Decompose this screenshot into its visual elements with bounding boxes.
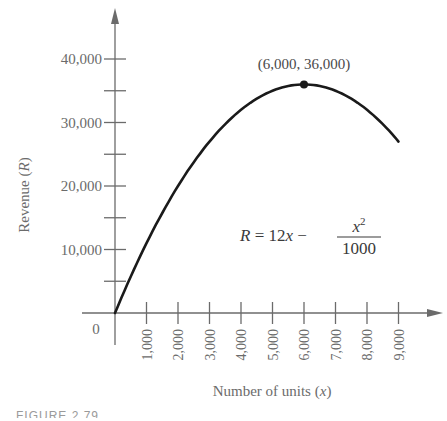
y-tick-label: 40,000 <box>61 51 102 67</box>
x-axis-title: Number of units (x) <box>213 383 332 400</box>
x-tick-label: 2,000 <box>171 329 186 361</box>
y-axis-arrow-icon <box>111 8 119 24</box>
y-tick-label: 20,000 <box>61 178 102 194</box>
peak-point-marker <box>300 80 308 88</box>
y-tick-label: 30,000 <box>61 115 102 131</box>
revenue-chart: 10,00020,00030,00040,000 1,0002,0003,000… <box>0 0 447 421</box>
x-tick-label: 4,000 <box>234 329 249 361</box>
x-tick-labels: 1,0002,0003,0004,0005,0006,0007,0008,000… <box>140 329 407 361</box>
x-tick-label: 6,000 <box>297 329 312 361</box>
y-tick-labels: 10,00020,00030,00040,000 <box>61 51 102 258</box>
formula: R = 12x − x2 1000 <box>239 215 381 258</box>
x-tick-label: 1,000 <box>140 329 155 361</box>
svg-text:R = 12x −: R = 12x − <box>239 226 307 245</box>
x-tick-label: 8,000 <box>360 329 375 361</box>
formula-denominator: 1000 <box>342 239 376 258</box>
formula-lhs: R <box>239 226 251 245</box>
y-axis-title: Revenue (R) <box>16 157 33 232</box>
formula-exponent: 2 <box>360 215 366 227</box>
figure-caption: FIGURE 2.79 <box>16 408 99 418</box>
x-tick-label: 3,000 <box>203 329 218 361</box>
peak-label: (6,000, 36,000) <box>258 56 351 73</box>
formula-minus: − <box>293 226 307 245</box>
origin-label: 0 <box>92 321 100 337</box>
y-tick-label: 10,000 <box>61 242 102 258</box>
x-tick-label: 7,000 <box>329 329 344 361</box>
x-axis-arrow-icon <box>427 309 443 317</box>
formula-eq: = 12 <box>250 226 285 245</box>
x-tick-label: 5,000 <box>266 329 281 361</box>
revenue-curve <box>115 84 399 313</box>
x-tick-label: 9,000 <box>392 329 407 361</box>
svg-text:x2: x2 <box>351 215 365 236</box>
